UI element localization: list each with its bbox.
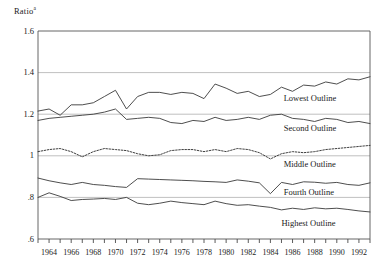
y-axis-tick-label: 1.2 — [8, 109, 34, 119]
series-label: Lowest Outline — [284, 93, 337, 103]
y-axis-tick-label: 1.6 — [8, 26, 34, 36]
series-label: Highest Outline — [281, 218, 335, 228]
series-label: Second Outline — [284, 123, 337, 133]
series-label: Middle Outline — [284, 159, 336, 169]
series-label: Fourth Outline — [284, 187, 334, 197]
chart-container: Ratioa 1.61.41.21.8.61964196619681970197… — [0, 0, 382, 266]
series-line — [38, 109, 370, 124]
y-axis-tick-label: 1 — [8, 150, 34, 160]
series-line — [38, 145, 370, 159]
y-axis-tick-label: .6 — [8, 234, 34, 244]
y-axis-tick-label: .8 — [8, 192, 34, 202]
x-axis-tick-label: 1992 — [344, 248, 374, 257]
y-axis-tick-label: 1.4 — [8, 67, 34, 77]
